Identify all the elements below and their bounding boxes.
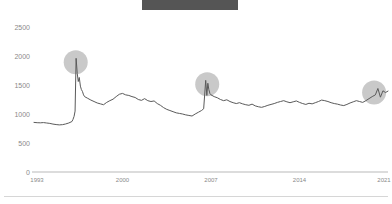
- footer-divider: [4, 196, 388, 197]
- chart-svg: 05001000150020002500 1993200020072014202…: [0, 0, 392, 204]
- y-axis-tick-label: 2000: [14, 53, 30, 60]
- x-axis-labels: 19932000200720142021: [30, 177, 391, 183]
- chart-page: 05001000150020002500 1993200020072014202…: [0, 0, 392, 204]
- x-axis-tick-label: 2021: [377, 177, 391, 183]
- y-axis-labels: 05001000150020002500: [14, 24, 30, 176]
- line-chart: 05001000150020002500 1993200020072014202…: [0, 0, 392, 204]
- y-axis-tick-label: 1500: [14, 82, 30, 89]
- x-axis-tick-label: 2000: [116, 177, 130, 183]
- y-axis-tick-label: 0: [26, 169, 30, 176]
- y-axis-tick-label: 500: [18, 140, 30, 147]
- y-axis-tick-label: 2500: [14, 24, 30, 31]
- highlight-markers: [64, 50, 386, 104]
- y-axis-tick-label: 1000: [14, 111, 30, 118]
- x-axis-tick-label: 2014: [293, 177, 307, 183]
- x-axis-tick-label: 1993: [30, 177, 44, 183]
- x-axis-tick-label: 2007: [204, 177, 218, 183]
